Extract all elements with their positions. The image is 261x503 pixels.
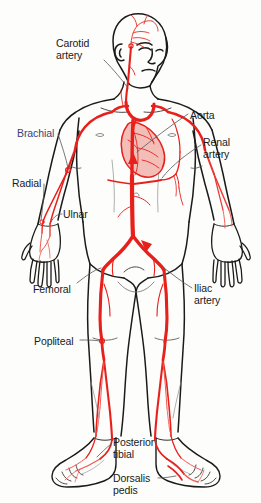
label-renal-artery: Renal artery [203,137,230,160]
label-posterior-tibial: Posterior tibial [113,437,154,460]
label-brachial: Brachial [17,128,54,140]
label-ulnar: Ulnar [63,209,88,221]
label-popliteal: Popliteal [34,336,73,348]
label-iliac-artery: Iliac artery [194,283,220,306]
tibial-arteries [65,360,204,482]
leader-popliteal [80,340,100,341]
label-femoral: Femoral [33,284,71,296]
leader-iliac-artery [164,268,192,288]
label-aorta: Aorta [190,110,215,122]
brachial-artery [66,150,75,174]
right-arm-arteries [205,150,232,228]
label-carotid-artery: Carotid artery [56,38,89,61]
arterial-system-diagram: Carotid artery Aorta Brachial Renal arte… [0,0,261,503]
anatomy-figure [0,0,261,503]
ulnar-artery [39,174,66,262]
iliac-artery [103,236,164,276]
popliteal-artery [100,339,165,360]
label-radial: Radial [12,178,41,190]
leader-brachial [58,134,68,168]
carotid-artery [121,44,135,106]
heart [121,120,164,177]
hands-outline [22,224,251,287]
body-outline [113,14,168,99]
label-dorsalis-pedis: Dorsalis pedis [113,473,150,496]
